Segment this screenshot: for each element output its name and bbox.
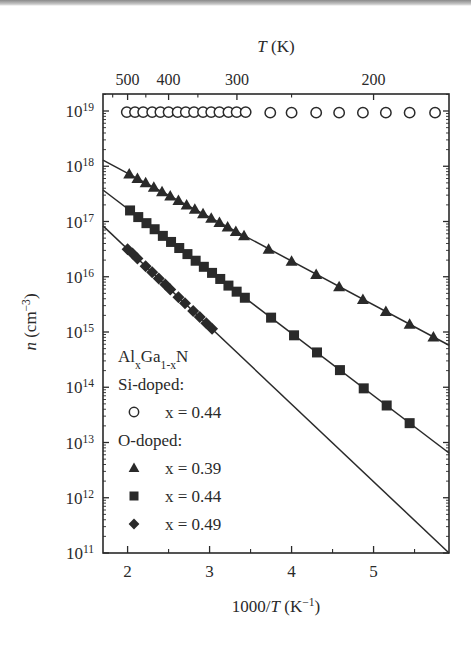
triangle-marker	[129, 463, 140, 472]
top-tick-label: 200	[362, 71, 386, 88]
legend-entry-label: x = 0.44	[165, 403, 222, 422]
triangle-marker	[310, 269, 322, 280]
triangle-marker	[427, 331, 439, 342]
triangle-marker	[263, 243, 275, 254]
diamond-marker	[129, 519, 140, 530]
triangle-marker	[123, 168, 135, 179]
circle-marker	[311, 107, 321, 117]
y-tick-label: 1015	[65, 322, 94, 343]
legend-entry-label: x = 0.44	[165, 487, 222, 506]
square-marker	[335, 365, 345, 375]
square-marker	[312, 347, 322, 357]
y-tick-label: 1013	[65, 432, 94, 453]
plot-border	[103, 94, 449, 553]
y-axis-label: n (cm−3)	[20, 293, 41, 350]
circle-marker	[240, 107, 250, 117]
x-tick-label: 3	[205, 562, 214, 581]
chart: 2345101110121013101410151016101710181019…	[0, 0, 471, 645]
triangle-marker	[286, 255, 298, 266]
circle-marker	[381, 107, 391, 117]
square-marker	[130, 492, 139, 501]
square-marker	[289, 330, 299, 340]
x-tick-label: 5	[369, 562, 378, 581]
y-tick-label: 1019	[65, 101, 94, 122]
circle-marker	[358, 107, 368, 117]
x-tick-label: 4	[287, 562, 296, 581]
triangle-marker	[357, 293, 369, 304]
legend-title: AlxGa1-xN	[118, 347, 188, 372]
circle-marker	[404, 107, 414, 117]
top-axis-label: T (K)	[257, 37, 294, 56]
y-tick-label: 1016	[65, 266, 94, 287]
y-tick-label: 1012	[65, 487, 94, 508]
x-tick-label: 2	[123, 562, 132, 581]
top-tick-label: 500	[116, 71, 140, 88]
triangle-marker	[380, 306, 392, 317]
circle-marker	[430, 107, 440, 117]
square-marker	[405, 418, 415, 428]
circle-marker	[286, 107, 296, 117]
legend-entry-label: x = 0.49	[165, 515, 221, 534]
axis-ticks: 2345101110121013101410151016101710181019…	[65, 71, 449, 581]
y-tick-label: 1014	[65, 377, 94, 398]
y-tick-label: 1018	[65, 156, 94, 177]
legend-group-heading: Si-doped:	[118, 375, 184, 394]
circle-marker	[265, 107, 275, 117]
triangle-marker	[333, 281, 345, 292]
triangle-marker	[404, 318, 416, 329]
square-marker	[359, 383, 369, 393]
y-tick-label: 1011	[66, 543, 94, 564]
square-marker	[382, 400, 392, 410]
legend: AlxGa1-xNSi-doped:x = 0.44O-doped:x = 0.…	[118, 347, 222, 534]
square-marker	[240, 293, 250, 303]
square-marker	[266, 313, 276, 323]
circle-marker	[129, 407, 138, 416]
legend-entry-label: x = 0.39	[165, 459, 221, 478]
y-tick-label: 1017	[65, 211, 94, 232]
plot-frame	[103, 94, 449, 553]
x-axis-label: 1000/T (K−1)	[232, 596, 320, 617]
circle-marker	[334, 107, 344, 117]
legend-group-heading: O-doped:	[118, 431, 182, 450]
top-tick-label: 300	[225, 71, 249, 88]
top-tick-label: 400	[157, 71, 181, 88]
